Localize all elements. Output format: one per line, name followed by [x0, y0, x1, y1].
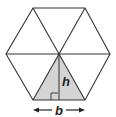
- hexagon-diagram: h b: [0, 0, 116, 117]
- height-label: h: [62, 74, 70, 89]
- base-label: b: [55, 103, 63, 117]
